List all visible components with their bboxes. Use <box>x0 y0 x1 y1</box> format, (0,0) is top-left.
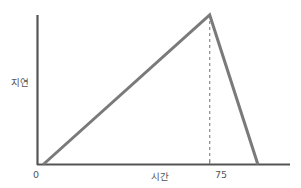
x-axis-tick-label-75: 75 <box>215 169 227 180</box>
chart-figure: 지연 시간 0 75 <box>0 0 301 188</box>
chart-canvas <box>0 0 301 188</box>
y-axis-title: 지연 <box>11 75 29 89</box>
data-series-delay-over-time <box>43 15 258 165</box>
x-axis-tick-label-origin: 0 <box>33 169 39 180</box>
x-axis-title: 시간 <box>151 169 169 183</box>
